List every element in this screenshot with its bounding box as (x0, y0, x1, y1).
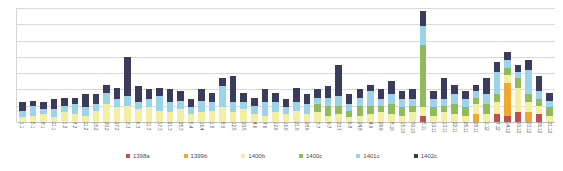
bar-segment[interactable] (504, 75, 511, 83)
bar-segment[interactable] (494, 62, 501, 72)
bar-segment[interactable] (156, 111, 163, 122)
bar-segment[interactable] (293, 88, 300, 103)
bar-segment[interactable] (504, 52, 511, 60)
bar-segment[interactable] (93, 111, 100, 122)
bar-segment[interactable] (177, 101, 184, 109)
bar-slot[interactable] (523, 8, 534, 122)
bar-segment[interactable] (124, 96, 131, 106)
bar-segment[interactable] (61, 98, 68, 106)
bar-segment[interactable] (146, 107, 153, 122)
bar-slot[interactable] (439, 8, 450, 122)
bar-segment[interactable] (167, 112, 174, 122)
bar-slot[interactable] (144, 8, 155, 122)
bar-slot[interactable] (175, 8, 186, 122)
bar-stack[interactable] (30, 101, 37, 122)
bar-segment[interactable] (251, 98, 258, 106)
bar-stack[interactable] (198, 89, 205, 122)
bar-stack[interactable] (346, 94, 353, 122)
bar-segment[interactable] (156, 96, 163, 111)
bar-slot[interactable] (101, 8, 112, 122)
bar-segment[interactable] (462, 91, 469, 99)
bar-segment[interactable] (388, 104, 395, 114)
bar-segment[interactable] (546, 107, 553, 115)
bar-segment[interactable] (30, 106, 37, 116)
bar-stack[interactable] (19, 102, 26, 122)
bar-slot[interactable] (492, 8, 503, 122)
bar-segment[interactable] (293, 111, 300, 122)
bar-segment[interactable] (72, 114, 79, 122)
bar-slot[interactable] (80, 8, 91, 122)
bar-segment[interactable] (473, 114, 480, 122)
bar-segment[interactable] (335, 96, 342, 106)
bar-stack[interactable] (167, 89, 174, 122)
bar-slot[interactable] (38, 8, 49, 122)
bar-segment[interactable] (146, 99, 153, 107)
bar-segment[interactable] (209, 93, 216, 103)
bar-slot[interactable] (270, 8, 281, 122)
bar-segment[interactable] (357, 106, 364, 116)
bar-segment[interactable] (209, 102, 216, 110)
bar-segment[interactable] (283, 114, 290, 122)
legend-item[interactable]: 1398a (126, 153, 150, 159)
bar-segment[interactable] (124, 57, 131, 96)
bar-segment[interactable] (177, 91, 184, 101)
bar-segment[interactable] (230, 76, 237, 102)
bar-segment[interactable] (515, 112, 522, 122)
bar-slot[interactable] (207, 8, 218, 122)
bar-segment[interactable] (451, 104, 458, 114)
bar-segment[interactable] (346, 94, 353, 104)
bar-segment[interactable] (441, 78, 448, 99)
legend-item[interactable]: 1399b (184, 153, 208, 159)
bar-segment[interactable] (462, 107, 469, 115)
bar-segment[interactable] (536, 91, 543, 99)
bar-segment[interactable] (103, 104, 110, 122)
bar-slot[interactable] (397, 8, 408, 122)
bar-segment[interactable] (219, 78, 226, 86)
bar-segment[interactable] (420, 11, 427, 26)
bar-segment[interactable] (430, 107, 437, 115)
bar-stack[interactable] (262, 89, 269, 122)
bar-segment[interactable] (483, 104, 490, 114)
bar-slot[interactable] (312, 8, 323, 122)
bar-segment[interactable] (388, 114, 395, 122)
bar-stack[interactable] (399, 91, 406, 122)
bar-stack[interactable] (251, 98, 258, 122)
bar-segment[interactable] (430, 91, 437, 99)
bar-stack[interactable] (335, 65, 342, 122)
bar-slot[interactable] (460, 8, 471, 122)
bar-segment[interactable] (388, 81, 395, 94)
bar-slot[interactable] (281, 8, 292, 122)
bar-segment[interactable] (198, 89, 205, 100)
bar-segment[interactable] (367, 91, 374, 106)
bar-segment[interactable] (483, 114, 490, 122)
bar-stack[interactable] (219, 78, 226, 122)
bar-segment[interactable] (198, 112, 205, 122)
bar-slot[interactable] (344, 8, 355, 122)
bar-segment[interactable] (409, 89, 416, 99)
bar-stack[interactable] (430, 91, 437, 122)
bar-slot[interactable] (17, 8, 28, 122)
bar-stack[interactable] (357, 89, 364, 122)
bar-segment[interactable] (357, 89, 364, 97)
bar-segment[interactable] (335, 106, 342, 114)
bar-stack[interactable] (103, 85, 110, 122)
bar-slot[interactable] (323, 8, 334, 122)
bar-slot[interactable] (217, 8, 228, 122)
bar-segment[interactable] (19, 102, 26, 110)
bar-segment[interactable] (272, 102, 279, 112)
bar-segment[interactable] (325, 106, 332, 116)
bar-slot[interactable] (333, 8, 344, 122)
bar-slot[interactable] (544, 8, 555, 122)
bar-stack[interactable] (146, 89, 153, 122)
bar-stack[interactable] (72, 98, 79, 122)
bar-segment[interactable] (188, 99, 195, 107)
bar-stack[interactable] (177, 91, 184, 122)
bar-segment[interactable] (420, 45, 427, 107)
bar-segment[interactable] (251, 106, 258, 114)
bar-slot[interactable] (291, 8, 302, 122)
bar-segment[interactable] (82, 94, 89, 107)
bar-stack[interactable] (135, 86, 142, 122)
bar-slot[interactable] (112, 8, 123, 122)
bar-segment[interactable] (314, 89, 321, 97)
bar-segment[interactable] (325, 86, 332, 97)
